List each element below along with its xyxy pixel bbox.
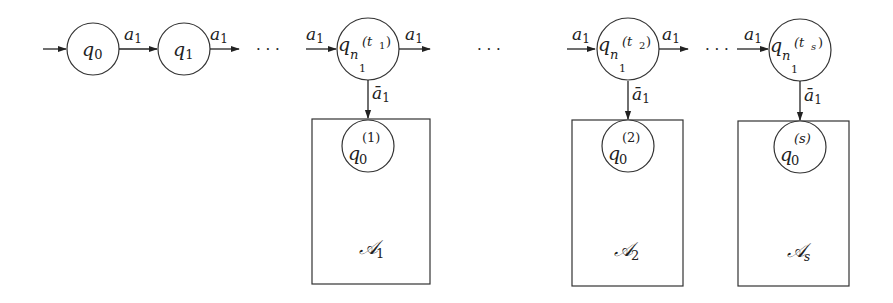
svg-text:q: q: [770, 34, 782, 56]
edge-label: a1: [744, 24, 762, 46]
svg-text:(1): (1): [362, 130, 380, 145]
svg-text:2: 2: [639, 40, 645, 51]
svg-text:n: n: [350, 47, 358, 62]
svg-text:): ): [818, 35, 823, 50]
svg-text:1: 1: [791, 63, 798, 76]
svg-text:(t: (t: [362, 34, 373, 49]
svg-text:n: n: [782, 48, 790, 63]
state-q0: q0: [67, 23, 119, 75]
svg-text:0: 0: [791, 153, 799, 168]
edge-label: a1: [662, 24, 680, 46]
svg-text:1: 1: [379, 40, 385, 51]
ellipsis: · · ·: [256, 40, 280, 58]
ellipsis: · · ·: [705, 40, 729, 58]
svg-text:1: 1: [359, 62, 366, 75]
svg-text:s: s: [804, 250, 810, 264]
edge-label: a1: [572, 24, 590, 46]
svg-text:(t: (t: [622, 34, 633, 49]
svg-text:(2): (2): [622, 130, 640, 145]
svg-text:0: 0: [619, 152, 627, 167]
edge-label: a1: [306, 24, 324, 46]
svg-text:s: s: [811, 41, 816, 52]
sub-automaton-A1: q 0 (1) 𝒜 1: [312, 119, 430, 284]
down-edge-label: ā1: [804, 85, 822, 107]
down-edge-label: ā1: [372, 83, 390, 105]
svg-text:q: q: [598, 33, 610, 55]
svg-text:n: n: [610, 47, 618, 62]
ellipsis: · · ·: [477, 40, 501, 58]
edge-label: a1: [405, 24, 423, 46]
svg-text:q: q: [338, 33, 350, 55]
sub-automaton-As: q 0 (s) 𝒜 s: [738, 121, 849, 286]
svg-text:): ): [386, 34, 391, 49]
edge-label: a1: [210, 24, 228, 46]
svg-text:2: 2: [631, 248, 639, 263]
svg-text:(s): (s): [794, 131, 811, 146]
edge-label: a1: [124, 24, 142, 46]
svg-text:0: 0: [359, 152, 367, 167]
down-edge-label: ā1: [632, 84, 650, 106]
automaton-diagram: q0 a1 q1 a1 · · · a1 q n 1 (t 1 ) a1 ā1 …: [0, 0, 893, 303]
state-q1: q1: [158, 23, 210, 75]
state-qts: q n 1 (t s ): [769, 19, 831, 81]
svg-text:(t: (t: [794, 35, 805, 50]
state-qt2: q n 1 (t 2 ): [597, 18, 659, 80]
svg-text:1: 1: [376, 246, 384, 261]
svg-text:): ): [646, 34, 651, 49]
svg-text:1: 1: [619, 62, 626, 75]
sub-automaton-A2: q 0 (2) 𝒜 2: [572, 120, 683, 286]
state-qt1: q n 1 (t 1 ): [337, 18, 399, 80]
